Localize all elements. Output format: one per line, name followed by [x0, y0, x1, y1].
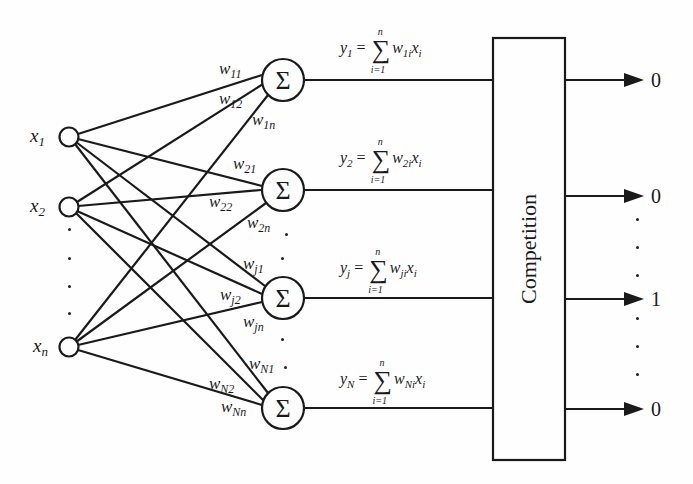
- competition-label: Competition: [516, 194, 542, 304]
- output-N: 0: [651, 399, 661, 419]
- weight-w22: w22: [209, 193, 232, 213]
- equation-yj: yj = ∑ni=1wjixi: [340, 257, 417, 283]
- weight-wN2: wN2: [209, 375, 234, 395]
- ellipsis-dot: [636, 218, 639, 221]
- sigma-symbol-1: Σ: [275, 66, 290, 95]
- ellipsis-dot: [68, 257, 71, 260]
- sigma-symbol-N: Σ: [275, 394, 290, 423]
- output-j: 1: [651, 289, 661, 309]
- sigma-symbol-j: Σ: [275, 284, 290, 313]
- summation-icon: ∑ni=1: [369, 257, 388, 283]
- competition-block: Competition: [493, 38, 565, 460]
- summation-icon: ∑ni=1: [372, 147, 391, 173]
- ellipsis-dot: [68, 312, 71, 315]
- arrow-head-N: [624, 402, 644, 416]
- edge-x1-yN: [75, 144, 268, 393]
- input-label-xn: xn: [33, 336, 48, 358]
- ellipsis-dot: [285, 233, 288, 236]
- network-diagram: Σ Σ Σ Σ: [0, 0, 693, 484]
- weight-w1n: w1n: [252, 111, 275, 131]
- ellipsis-dot: [281, 257, 284, 260]
- input-node-n: [60, 338, 79, 357]
- input-node-1: [60, 128, 79, 147]
- ellipsis-dot: [284, 366, 287, 369]
- ellipsis-dot: [636, 317, 639, 320]
- ellipsis-dot: [281, 338, 284, 341]
- ellipsis-dot: [68, 228, 71, 231]
- edge-x2-yj: [77, 211, 262, 294]
- weight-w2n: w2n: [247, 214, 270, 234]
- output-1: 0: [651, 70, 661, 90]
- equation-yN: yN = ∑ni=1wNixi: [340, 368, 425, 394]
- weight-wj1: wj1: [243, 255, 264, 275]
- edge-x2-y2: [78, 190, 261, 206]
- weight-w21: w21: [233, 155, 256, 175]
- ellipsis-dot: [636, 345, 639, 348]
- summation-icon: ∑ni=1: [372, 37, 391, 63]
- summation-icon: ∑ni=1: [373, 368, 392, 394]
- weight-wN1: wN1: [249, 355, 274, 375]
- edge-xn-yN: [78, 350, 262, 405]
- input-label-x1: x1: [30, 126, 45, 148]
- equation-y1: y1 = ∑ni=1w1ixi: [340, 37, 422, 63]
- equation-y2: y2 = ∑ni=1w2ixi: [340, 147, 422, 173]
- ellipsis-dot: [636, 246, 639, 249]
- ellipsis-dot: [68, 285, 71, 288]
- weight-wjn: wjn: [243, 313, 264, 333]
- arrow-head-1: [624, 73, 644, 87]
- weight-wNn: wNn: [221, 398, 246, 418]
- ellipsis-dot: [636, 373, 639, 376]
- ellipsis-dot: [636, 274, 639, 277]
- input-node-2: [60, 198, 79, 217]
- output-2: 0: [651, 186, 661, 206]
- weight-wj2: wj2: [220, 286, 241, 306]
- arrow-head-j: [624, 292, 644, 306]
- sigma-symbol-2: Σ: [275, 176, 290, 205]
- weight-w12: w12: [219, 90, 242, 110]
- weight-w11: w11: [219, 60, 241, 80]
- arrow-head-2: [624, 189, 644, 203]
- input-label-x2: x2: [30, 196, 45, 218]
